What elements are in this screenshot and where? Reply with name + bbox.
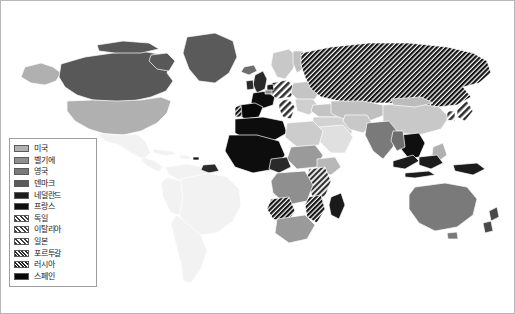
legend-item-japan[interactable]: 일본 xyxy=(14,236,93,248)
legend-label-russia: 러시아 xyxy=(34,260,54,269)
legend-swatch-portugal xyxy=(14,250,29,257)
region-portugal xyxy=(235,105,242,117)
legend-swatch-denmark xyxy=(14,180,29,187)
legend-swatch-netherlands xyxy=(14,192,29,199)
region-belgium xyxy=(265,90,272,94)
legend-label-denmark: 덴마크 xyxy=(34,179,54,188)
legend-swatch-france xyxy=(14,203,29,210)
legend-swatch-italy xyxy=(14,226,29,233)
legend-item-russia[interactable]: 러시아 xyxy=(14,259,93,271)
region-new-zealand-south xyxy=(483,221,493,233)
legend-item-usa[interactable]: 미국 xyxy=(14,143,93,155)
legend-item-belgium[interactable]: 벨기에 xyxy=(14,155,93,167)
map-legend: 미국 벨기에 영국 덴마크 네덜란드 프랑스 독일 이탈리아 xyxy=(9,138,97,287)
region-puerto-rico xyxy=(193,157,199,160)
legend-swatch-belgium xyxy=(14,157,29,164)
legend-item-uk[interactable]: 영국 xyxy=(14,166,93,178)
legend-item-denmark[interactable]: 덴마크 xyxy=(14,178,93,190)
legend-label-netherlands: 네덜란드 xyxy=(34,191,61,200)
legend-label-france: 프랑스 xyxy=(34,202,54,211)
figure-frame: 미국 벨기에 영국 덴마크 네덜란드 프랑스 독일 이탈리아 xyxy=(0,0,515,314)
region-korea xyxy=(447,111,455,121)
legend-swatch-japan xyxy=(14,238,29,245)
legend-swatch-russia xyxy=(14,261,29,268)
legend-swatch-spain xyxy=(14,273,29,280)
legend-item-netherlands[interactable]: 네덜란드 xyxy=(14,189,93,201)
legend-label-belgium: 벨기에 xyxy=(34,156,54,165)
legend-label-spain: 스페인 xyxy=(34,272,54,281)
legend-item-germany[interactable]: 독일 xyxy=(14,213,93,225)
legend-swatch-uk xyxy=(14,168,29,175)
region-ireland xyxy=(246,80,254,90)
legend-label-japan: 일본 xyxy=(34,237,48,246)
legend-item-italy[interactable]: 이탈리아 xyxy=(14,224,93,236)
legend-swatch-usa xyxy=(14,145,29,152)
legend-swatch-germany xyxy=(14,215,29,222)
legend-label-usa: 미국 xyxy=(34,144,48,153)
legend-label-germany: 독일 xyxy=(34,214,48,223)
legend-label-italy: 이탈리아 xyxy=(34,225,61,234)
legend-item-france[interactable]: 프랑스 xyxy=(14,201,93,213)
legend-label-uk: 영국 xyxy=(34,167,48,176)
legend-label-portugal: 포르투갈 xyxy=(34,249,61,258)
legend-item-portugal[interactable]: 포르투갈 xyxy=(14,247,93,259)
legend-item-spain[interactable]: 스페인 xyxy=(14,271,93,283)
region-russia xyxy=(301,43,491,107)
region-tasmania xyxy=(447,232,458,239)
